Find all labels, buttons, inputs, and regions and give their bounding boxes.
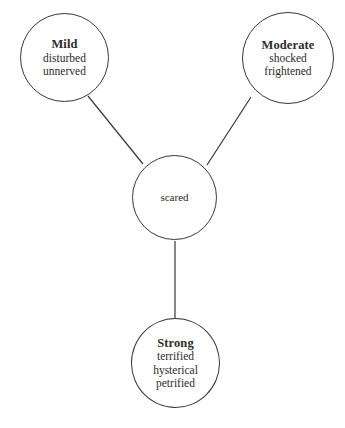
node-mild-title: Mild [51,37,77,51]
node-moderate-term-2: frightened [264,65,311,78]
node-scared-label: scared [160,191,188,204]
node-strong-title: Strong [157,336,194,350]
edge-mild-to-scared [88,96,143,164]
node-strong-term-1: terrified [157,350,194,363]
node-mild-term-2: unnerved [43,65,86,78]
node-strong-term-2: hysterical [153,364,198,377]
node-moderate-term-1: shocked [269,52,307,65]
node-moderate: Moderate shocked frightened [242,12,334,104]
node-moderate-title: Moderate [262,38,315,52]
node-mild: Mild disturbed unnerved [20,13,109,102]
diagram-canvas: Mild disturbed unnerved Moderate shocked… [0,0,345,428]
node-mild-term-1: disturbed [43,52,86,65]
node-scared-center: scared [132,155,217,240]
edge-moderate-to-scared [207,97,251,165]
node-strong-term-3: petrified [156,377,195,390]
node-strong: Strong terrified hysterical petrified [131,318,220,408]
